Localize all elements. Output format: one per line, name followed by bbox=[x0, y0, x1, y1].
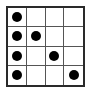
grid-cell-r0-c1 bbox=[27, 8, 46, 27]
grid-cell-r0-c0 bbox=[8, 8, 27, 27]
grid-cell-r2-c2 bbox=[46, 47, 65, 66]
grid-cell-r3-c1 bbox=[27, 66, 46, 85]
grid-cell-r1-c0 bbox=[8, 27, 27, 46]
grid-cell-r3-c2 bbox=[46, 66, 65, 85]
grid-cell-r2-c1 bbox=[27, 47, 46, 66]
grid-cell-r3-c3 bbox=[64, 66, 83, 85]
grid-cell-r2-c0 bbox=[8, 47, 27, 66]
dot-icon bbox=[49, 51, 59, 61]
grid-cell-r0-c3 bbox=[64, 8, 83, 27]
dot-icon bbox=[12, 31, 22, 41]
dot-grid bbox=[6, 6, 85, 87]
grid-cell-r2-c3 bbox=[64, 47, 83, 66]
dot-icon bbox=[12, 70, 22, 80]
dot-icon bbox=[12, 12, 22, 22]
dot-icon bbox=[69, 70, 79, 80]
dot-icon bbox=[31, 31, 41, 41]
grid-cell-r3-c0 bbox=[8, 66, 27, 85]
grid-cell-r1-c3 bbox=[64, 27, 83, 46]
dot-icon bbox=[12, 51, 22, 61]
grid-cell-r1-c1 bbox=[27, 27, 46, 46]
grid-cell-r0-c2 bbox=[46, 8, 65, 27]
grid-cell-r1-c2 bbox=[46, 27, 65, 46]
